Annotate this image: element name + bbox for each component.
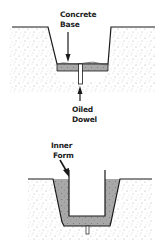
- label-base: Base: [60, 20, 80, 29]
- label-oiled: Oiled: [72, 105, 93, 114]
- label-inner: Inner: [51, 141, 73, 150]
- diagram-inner-form: Inner Form: [28, 141, 152, 240]
- diagram-concrete-base: Concrete Base Oiled Dowel: [10, 10, 155, 124]
- label-dowel: Dowel: [72, 115, 97, 124]
- inner-form: [69, 171, 105, 216]
- diagram-canvas: Concrete Base Oiled Dowel Inner Form: [0, 0, 163, 252]
- dowel-2: [86, 226, 89, 234]
- label-form: Form: [53, 151, 74, 160]
- oiled-dowel: [79, 64, 83, 84]
- label-concrete: Concrete: [60, 10, 96, 19]
